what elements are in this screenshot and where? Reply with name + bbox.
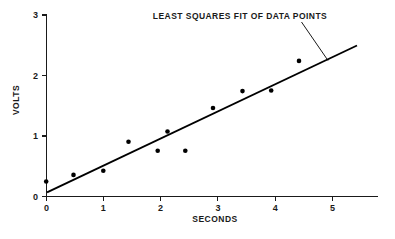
x-axis-title: SECONDS [192,215,238,224]
data-point [165,129,170,134]
y-tick-label-3: 3 [28,11,38,20]
data-point [297,59,302,64]
y-tick-label-2: 2 [28,71,38,80]
chart-figure: 0 1 2 3 0 1 2 3 4 5 SECONDS VOLTS LEAST … [0,0,395,239]
x-tick-label-4: 4 [273,204,278,213]
data-point [101,168,106,173]
data-points [44,59,301,184]
data-point [126,139,131,144]
least-squares-fit-line [47,46,357,193]
plot-area [0,0,395,239]
data-point [155,149,160,154]
x-tick-label-3: 3 [215,204,220,213]
x-tick-label-2: 2 [158,204,163,213]
data-point [71,173,76,178]
y-tick-label-0: 0 [28,192,38,201]
x-tick-label-5: 5 [330,204,335,213]
data-point [183,149,188,154]
y-tick-marks [42,15,47,197]
x-tick-marks [47,197,333,202]
x-tick-label-1: 1 [101,204,106,213]
data-point [240,89,245,94]
data-point [44,179,49,184]
annotation-leader-line [302,22,329,61]
x-tick-label-0: 0 [44,204,49,213]
y-axis-title: VOLTS [12,85,21,115]
fit-line-annotation-label: LEAST SQUARES FIT OF DATA POINTS [153,12,327,21]
data-point [211,106,216,111]
data-point [269,88,274,93]
y-tick-label-1: 1 [28,132,38,141]
